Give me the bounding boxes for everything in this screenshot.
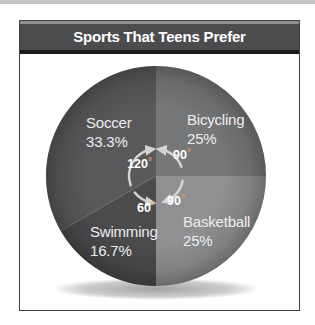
degree-symbol: ° bbox=[181, 193, 185, 204]
slice-name: Soccer bbox=[86, 113, 132, 132]
degree-symbol: ° bbox=[148, 156, 152, 167]
slice-percent: 25% bbox=[183, 231, 250, 250]
slice-label-bicycling: Bicycling 25% bbox=[187, 110, 244, 148]
page: { "page": { "title": "Sports That Teens … bbox=[0, 0, 315, 325]
slice-name: Swimming bbox=[90, 222, 158, 241]
angle-label-basketball: 90° bbox=[167, 194, 185, 208]
angle-value: 120 bbox=[127, 157, 148, 171]
angle-value: 90 bbox=[173, 148, 187, 162]
angle-label-soccer: 120° bbox=[118, 157, 152, 171]
slice-percent: 25% bbox=[187, 129, 244, 148]
slice-name: Bicycling bbox=[187, 110, 244, 129]
angle-value: 60 bbox=[137, 201, 151, 215]
slice-name: Basketball bbox=[183, 212, 250, 231]
slice-percent: 16.7% bbox=[90, 241, 158, 260]
angle-label-swimming: 60° bbox=[137, 201, 155, 215]
slice-label-soccer: Soccer 33.3% bbox=[86, 113, 132, 151]
angle-value: 90 bbox=[167, 194, 181, 208]
slice-label-swimming: Swimming 16.7% bbox=[90, 222, 158, 260]
slice-percent: 33.3% bbox=[86, 132, 132, 151]
slice-label-basketball: Basketball 25% bbox=[183, 212, 250, 250]
degree-symbol: ° bbox=[187, 147, 191, 158]
degree-symbol: ° bbox=[151, 200, 155, 211]
angle-label-bicycling: 90° bbox=[173, 148, 191, 162]
pie-chart bbox=[0, 0, 315, 325]
